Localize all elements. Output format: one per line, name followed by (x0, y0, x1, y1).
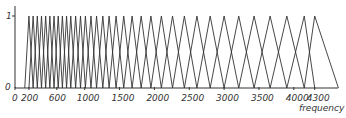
filter-triangle (41, 16, 49, 88)
filter-triangle (76, 16, 86, 88)
filter-triangle (124, 16, 141, 88)
triangular-filters (25, 16, 339, 88)
filter-triangle (197, 16, 224, 88)
x-tick-label: 1000 (77, 93, 100, 103)
x-tick-label: 0 (12, 93, 18, 103)
filter-triangle (109, 16, 124, 88)
y-tick-label-0: 0 (5, 82, 11, 92)
x-tick-labels: 020060010001500200025003000350040004300 (12, 93, 330, 103)
x-tick-label: 2500 (181, 93, 204, 103)
filter-triangle (287, 16, 315, 88)
x-tick-label: 200 (21, 93, 38, 103)
filter-triangle (46, 16, 54, 88)
x-tick-label: 600 (49, 93, 66, 103)
filter-triangle (71, 16, 81, 88)
filter-triangle (151, 16, 173, 88)
filter-triangle (239, 16, 270, 88)
filter-triangle (141, 16, 161, 88)
filter-triangle (184, 16, 210, 88)
filter-triangle (29, 16, 37, 88)
filter-triangle (116, 16, 132, 88)
filter-triangle (224, 16, 254, 88)
filter-triangle (97, 16, 110, 88)
filter-triangle (132, 16, 151, 88)
y-tick-label-1: 1 (6, 11, 12, 21)
filter-triangle (210, 16, 239, 88)
filter-triangle (62, 16, 70, 88)
filter-triangle (304, 16, 338, 88)
filter-triangle (103, 16, 116, 88)
filter-triangle (270, 16, 304, 88)
x-tick-label: 3000 (216, 93, 239, 103)
filter-triangle (161, 16, 184, 88)
filter-triangle (33, 16, 41, 88)
x-axis-label: frequency (299, 103, 345, 113)
x-tick-label: 3500 (251, 93, 274, 103)
x-tick-label: 4300 (307, 93, 330, 103)
filter-triangle (91, 16, 103, 88)
x-tick-label: 4000 (286, 93, 309, 103)
filter-triangle (58, 16, 66, 88)
filter-triangle (81, 16, 91, 88)
x-tick-label: 1500 (112, 93, 135, 103)
filter-triangle (254, 16, 287, 88)
filter-triangle (85, 16, 96, 88)
filter-triangle (25, 16, 33, 88)
filter-triangle (50, 16, 58, 88)
filter-triangle (37, 16, 45, 88)
x-tick-label: 2000 (146, 93, 169, 103)
filter-triangle (173, 16, 197, 88)
filter-triangle (54, 16, 62, 88)
filter-bank-chart: 1 0 020060010001500200025003000350040004… (0, 0, 346, 118)
